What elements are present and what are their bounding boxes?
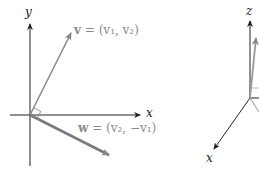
- x-axis-3d: [214, 98, 250, 149]
- vector-w-label: w = (v₂, −v₁): [78, 122, 156, 134]
- vector-v-label: v = (v₁, v₂): [74, 24, 139, 36]
- left-diagram: [10, 24, 140, 166]
- y-axis-label: y: [25, 6, 32, 18]
- vector-v-arrow: [30, 33, 71, 115]
- vector-3d-up: [250, 38, 256, 98]
- z-axis-label-3d: z: [246, 5, 252, 17]
- right-diagram: [214, 21, 259, 149]
- vector-v-expression: = (v₁, v₂): [81, 23, 139, 37]
- vector-w-symbol: w: [78, 121, 88, 135]
- vector-w-expression: = (v₂, −v₁): [88, 121, 156, 135]
- vector-v-symbol: v: [74, 23, 81, 37]
- vector-3d-down: [250, 98, 259, 112]
- x-axis-label-3d: x: [206, 152, 213, 164]
- x-axis-label: x: [146, 107, 153, 119]
